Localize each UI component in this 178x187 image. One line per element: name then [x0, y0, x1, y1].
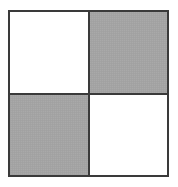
quadrant-top-right: [89, 12, 168, 94]
texture-overlay-top-right: [89, 12, 168, 94]
quadrant-bottom-left: [10, 94, 89, 176]
figure-canvas: [0, 0, 178, 187]
quadrant-bottom-right: [89, 94, 168, 176]
texture-overlay-bottom-left: [10, 94, 89, 176]
divider-horizontal-line: [10, 93, 167, 95]
quadrant-top-left: [10, 12, 89, 94]
outer-square-frame: [8, 10, 169, 177]
